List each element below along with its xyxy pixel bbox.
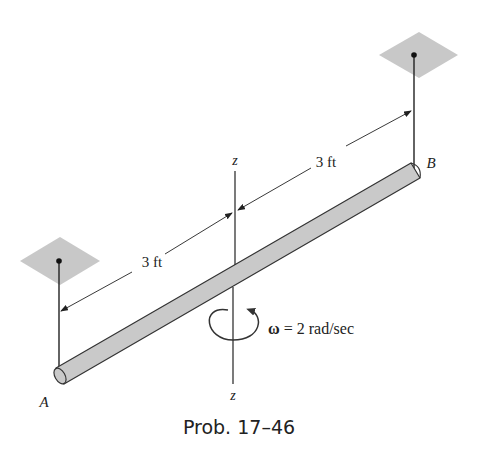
diagram-svg: 3 ft 3 ft z z B A ω = 2 rad/sec Prob. 17… (0, 0, 478, 460)
rotation-arrow-icon (209, 310, 258, 340)
point-b-label: B (426, 155, 435, 171)
dimension-line-upper-b (238, 168, 311, 210)
dimension-label-lower: 3 ft (142, 254, 163, 270)
wire-a-anchor (56, 258, 62, 264)
omega-symbol: ω (268, 320, 280, 337)
ceiling-plate-b (379, 32, 458, 78)
dimension-line-upper-a (346, 111, 411, 146)
rod (51, 163, 420, 386)
point-a-label: A (38, 394, 49, 410)
wire-b-anchor (411, 52, 417, 58)
omega-value: = 2 rad/sec (280, 320, 354, 337)
z-axis-label-top: z (231, 153, 238, 168)
figure: 3 ft 3 ft z z B A ω = 2 rad/sec Prob. 17… (0, 0, 478, 460)
figure-caption: Prob. 17–46 (183, 416, 295, 438)
dimension-line-lower-a (165, 213, 232, 254)
z-axis-label-bottom: z (229, 388, 236, 403)
dimension-label-upper: 3 ft (316, 154, 337, 170)
angular-velocity-label: ω = 2 rad/sec (268, 320, 354, 337)
